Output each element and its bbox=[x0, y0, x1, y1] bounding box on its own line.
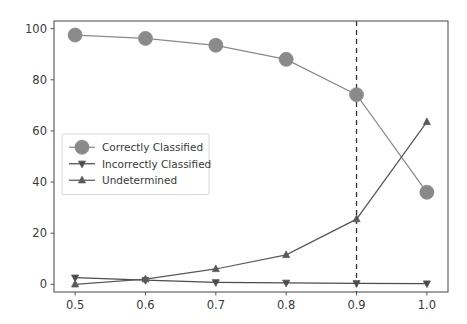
line-chart: 020406080100 0.50.60.70.80.91.0 Correctl… bbox=[0, 0, 467, 324]
legend-label: Correctly Classified bbox=[102, 141, 203, 153]
data-point-marker bbox=[68, 28, 82, 42]
y-tick-label: 100 bbox=[25, 22, 47, 36]
y-tick-label: 60 bbox=[32, 124, 47, 138]
legend-label: Undetermined bbox=[102, 174, 177, 186]
x-tick-label: 0.7 bbox=[207, 298, 225, 312]
x-tick-label: 0.5 bbox=[66, 298, 84, 312]
x-tick-label: 0.6 bbox=[136, 298, 154, 312]
data-point-marker bbox=[350, 88, 364, 102]
x-tick-label: 0.9 bbox=[347, 298, 365, 312]
x-tick-label: 1.0 bbox=[418, 298, 436, 312]
y-tick-label: 0 bbox=[40, 277, 47, 291]
y-tick-label: 80 bbox=[32, 73, 47, 87]
data-point-marker bbox=[209, 38, 223, 52]
data-point-marker bbox=[279, 52, 293, 66]
y-tick-label: 40 bbox=[32, 175, 47, 189]
chart-figure: 020406080100 0.50.60.70.80.91.0 Correctl… bbox=[0, 0, 467, 324]
data-point-marker bbox=[420, 185, 434, 199]
chart-legend: Correctly ClassifiedIncorrectly Classifi… bbox=[62, 134, 211, 195]
x-tick-label: 0.8 bbox=[277, 298, 295, 312]
legend-label: Incorrectly Classified bbox=[102, 158, 211, 170]
y-tick-label: 20 bbox=[32, 226, 47, 240]
data-point-marker bbox=[75, 140, 89, 154]
data-point-marker bbox=[138, 31, 152, 45]
